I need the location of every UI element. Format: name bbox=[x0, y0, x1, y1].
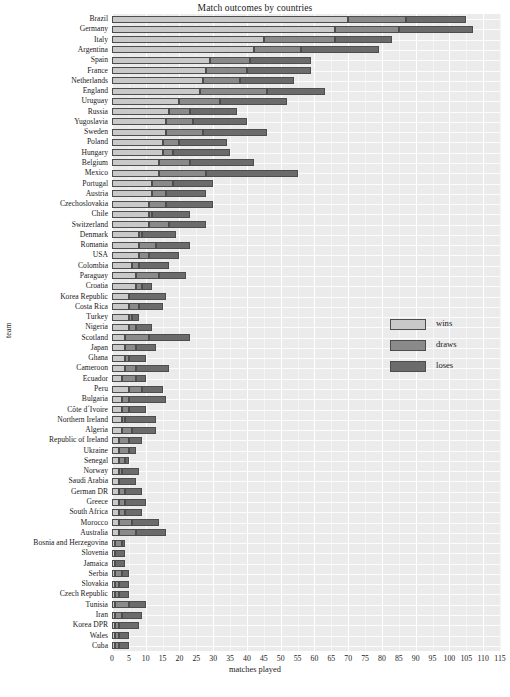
bar-segment-wins[interactable] bbox=[112, 262, 132, 269]
bar-segment-wins[interactable] bbox=[112, 314, 129, 321]
bar-segment-draws[interactable] bbox=[119, 488, 126, 495]
bar-row[interactable] bbox=[112, 540, 125, 547]
bar-row[interactable] bbox=[112, 221, 206, 228]
bar-segment-loses[interactable] bbox=[193, 118, 247, 125]
bar-row[interactable] bbox=[112, 139, 227, 146]
bar-segment-loses[interactable] bbox=[142, 231, 176, 238]
bar-segment-draws[interactable] bbox=[119, 529, 136, 536]
bar-segment-loses[interactable] bbox=[129, 601, 146, 608]
bar-segment-loses[interactable] bbox=[136, 344, 156, 351]
bar-segment-draws[interactable] bbox=[119, 437, 129, 444]
bar-segment-loses[interactable] bbox=[119, 642, 129, 649]
bar-segment-draws[interactable] bbox=[152, 190, 165, 197]
bar-segment-wins[interactable] bbox=[112, 118, 166, 125]
bar-segment-wins[interactable] bbox=[112, 324, 129, 331]
bar-segment-draws[interactable] bbox=[179, 98, 219, 105]
bar-segment-loses[interactable] bbox=[125, 457, 128, 464]
bar-segment-loses[interactable] bbox=[173, 180, 213, 187]
bar-row[interactable] bbox=[112, 622, 139, 629]
bar-segment-wins[interactable] bbox=[112, 519, 119, 526]
bar-row[interactable] bbox=[112, 293, 166, 300]
bar-row[interactable] bbox=[112, 88, 325, 95]
bar-segment-wins[interactable] bbox=[112, 57, 210, 64]
bar-segment-wins[interactable] bbox=[112, 16, 348, 23]
bar-segment-wins[interactable] bbox=[112, 190, 152, 197]
bar-segment-wins[interactable] bbox=[112, 108, 169, 115]
bar-row[interactable] bbox=[112, 499, 146, 506]
bar-row[interactable] bbox=[112, 570, 129, 577]
bar-segment-draws[interactable] bbox=[119, 499, 126, 506]
bar-segment-loses[interactable] bbox=[399, 26, 473, 33]
bar-segment-draws[interactable] bbox=[149, 221, 169, 228]
bar-row[interactable] bbox=[112, 303, 163, 310]
bar-row[interactable] bbox=[112, 129, 267, 136]
bar-segment-draws[interactable] bbox=[129, 386, 142, 393]
bar-row[interactable] bbox=[112, 529, 166, 536]
bar-segment-draws[interactable] bbox=[139, 242, 156, 249]
bar-segment-loses[interactable] bbox=[152, 211, 189, 218]
bar-segment-loses[interactable] bbox=[129, 293, 166, 300]
bar-row[interactable] bbox=[112, 211, 190, 218]
bar-segment-loses[interactable] bbox=[220, 98, 287, 105]
bar-segment-loses[interactable] bbox=[136, 365, 170, 372]
bar-row[interactable] bbox=[112, 170, 298, 177]
bar-row[interactable] bbox=[112, 601, 146, 608]
bar-segment-wins[interactable] bbox=[112, 26, 335, 33]
bar-segment-wins[interactable] bbox=[112, 457, 119, 464]
bar-segment-wins[interactable] bbox=[112, 149, 163, 156]
bar-segment-loses[interactable] bbox=[122, 570, 129, 577]
bar-row[interactable] bbox=[112, 314, 139, 321]
bar-row[interactable] bbox=[112, 416, 156, 423]
bar-row[interactable] bbox=[112, 262, 169, 269]
bar-segment-wins[interactable] bbox=[112, 468, 119, 475]
bar-segment-loses[interactable] bbox=[149, 252, 179, 259]
bar-segment-wins[interactable] bbox=[112, 437, 119, 444]
bar-segment-draws[interactable] bbox=[119, 457, 126, 464]
bar-segment-draws[interactable] bbox=[119, 447, 129, 454]
bar-segment-loses[interactable] bbox=[129, 406, 146, 413]
bar-row[interactable] bbox=[112, 560, 125, 567]
bar-segment-wins[interactable] bbox=[112, 529, 119, 536]
bar-segment-draws[interactable] bbox=[200, 88, 267, 95]
bar-row[interactable] bbox=[112, 406, 146, 413]
bar-segment-wins[interactable] bbox=[112, 36, 264, 43]
bar-segment-loses[interactable] bbox=[190, 159, 254, 166]
bar-segment-draws[interactable] bbox=[119, 519, 132, 526]
bar-segment-loses[interactable] bbox=[335, 36, 392, 43]
bar-segment-draws[interactable] bbox=[129, 324, 136, 331]
bar-segment-loses[interactable] bbox=[166, 201, 213, 208]
bar-row[interactable] bbox=[112, 427, 156, 434]
bar-segment-wins[interactable] bbox=[112, 355, 125, 362]
bar-segment-wins[interactable] bbox=[112, 406, 122, 413]
bar-row[interactable] bbox=[112, 591, 129, 598]
bar-segment-wins[interactable] bbox=[112, 344, 125, 351]
bar-segment-wins[interactable] bbox=[112, 283, 136, 290]
bar-segment-wins[interactable] bbox=[112, 170, 159, 177]
bar-segment-loses[interactable] bbox=[125, 499, 145, 506]
bar-segment-draws[interactable] bbox=[149, 201, 166, 208]
bar-row[interactable] bbox=[112, 581, 129, 588]
bar-segment-loses[interactable] bbox=[179, 139, 226, 146]
bar-row[interactable] bbox=[112, 201, 213, 208]
bar-segment-draws[interactable] bbox=[122, 427, 132, 434]
bar-segment-draws[interactable] bbox=[210, 57, 250, 64]
bar-row[interactable] bbox=[112, 344, 156, 351]
bar-row[interactable] bbox=[112, 457, 129, 464]
bar-segment-loses[interactable] bbox=[250, 57, 311, 64]
bar-segment-draws[interactable] bbox=[136, 283, 143, 290]
bar-segment-wins[interactable] bbox=[112, 396, 122, 403]
bar-row[interactable] bbox=[112, 252, 179, 259]
bar-row[interactable] bbox=[112, 98, 287, 105]
bar-row[interactable] bbox=[112, 190, 206, 197]
bar-segment-wins[interactable] bbox=[112, 478, 119, 485]
bar-segment-loses[interactable] bbox=[136, 375, 146, 382]
bar-segment-loses[interactable] bbox=[136, 324, 153, 331]
bar-row[interactable] bbox=[112, 108, 237, 115]
legend-item[interactable]: draws bbox=[390, 337, 490, 358]
bar-segment-draws[interactable] bbox=[206, 67, 246, 74]
bar-row[interactable] bbox=[112, 396, 166, 403]
bar-segment-wins[interactable] bbox=[112, 77, 203, 84]
bar-segment-draws[interactable] bbox=[119, 509, 126, 516]
bar-row[interactable] bbox=[112, 180, 213, 187]
bar-segment-loses[interactable] bbox=[119, 591, 129, 598]
